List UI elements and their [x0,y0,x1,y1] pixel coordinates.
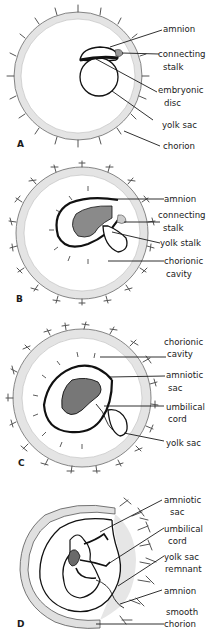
label-c-cavity: cavity [167,349,193,359]
label-a-chorion: chorion [163,141,195,151]
svg-text:stalk: stalk [163,62,184,72]
label-a-yolk-sac: yolk sac [162,120,197,130]
svg-text:smooth: smooth [166,607,198,617]
label-d-remnant: remnant [165,564,202,574]
label-a-disc: disc [164,98,181,108]
label-d-amniotic: amniotic [164,495,201,505]
svg-text:sac: sac [168,383,183,393]
label-c-yolk-sac: yolk sac [166,438,201,448]
label-a-stalk: stalk [163,62,184,72]
svg-text:cavity: cavity [166,269,192,279]
label-b-amnion: amnion [164,194,196,204]
label-b-cavity: cavity [166,269,192,279]
panel-c-letter: C [18,458,25,468]
svg-text:connecting: connecting [158,210,206,220]
svg-text:cord: cord [168,536,187,546]
label-c-umbilical: umbilical [166,402,205,412]
svg-text:amnion: amnion [164,194,196,204]
svg-text:amnion: amnion [164,586,196,596]
svg-text:yolk sac: yolk sac [166,438,201,448]
svg-text:chorion: chorion [163,141,195,151]
label-d-umbilical: umbilical [164,524,203,534]
svg-text:yolk sac: yolk sac [164,552,199,562]
svg-text:embryonic: embryonic [158,85,204,95]
embryo-development-diagram: amnion connecting stalk embryonic disc y… [0,0,215,632]
svg-text:cord: cord [168,414,187,424]
label-c-amniotic: amniotic [166,370,203,380]
label-d-amnion: amnion [164,586,196,596]
label-d-smooth: smooth [166,607,198,617]
label-d-cord: cord [168,536,187,546]
label-b-stalk: stalk [163,223,184,233]
svg-text:sac: sac [170,507,185,517]
label-a-connecting: connecting [158,49,206,59]
svg-text:chorionic: chorionic [164,256,203,266]
svg-text:disc: disc [164,98,181,108]
label-d-chorion: chorion [164,619,196,629]
label-b-chorionic: chorionic [164,256,203,266]
svg-text:yolk stalk: yolk stalk [160,238,201,248]
svg-text:remnant: remnant [165,564,202,574]
panel-a-yolk-sac [80,58,118,96]
svg-text:connecting: connecting [158,49,206,59]
label-d-yolk-sac: yolk sac [164,552,199,562]
label-a-embryonic: embryonic [158,85,204,95]
svg-text:amnion: amnion [163,24,195,34]
panel-c: chorionic cavity amniotic sac umbilical … [6,322,205,473]
label-c-cord: cord [168,414,187,424]
svg-text:chorion: chorion [164,619,196,629]
label-a-amnion: amnion [163,24,195,34]
label-b-yolk-stalk: yolk stalk [160,238,201,248]
panel-d-letter: D [17,619,24,629]
svg-text:amniotic: amniotic [164,495,201,505]
panel-d: amniotic sac umbilical cord yolk sac rem… [17,495,203,629]
panel-b-letter: B [16,294,23,304]
svg-text:umbilical: umbilical [166,402,205,412]
panel-a: amnion connecting stalk embryonic disc y… [7,5,206,151]
panel-a-letter: A [17,139,24,149]
panel-b: amnion connecting stalk yolk stalk chori… [9,161,206,305]
svg-text:umbilical: umbilical [164,524,203,534]
svg-text:chorionic: chorionic [164,337,203,347]
label-c-chorionic: chorionic [164,337,203,347]
label-b-connecting: connecting [158,210,206,220]
label-c-sac: sac [168,383,183,393]
svg-text:stalk: stalk [163,223,184,233]
svg-text:amniotic: amniotic [166,370,203,380]
svg-text:yolk sac: yolk sac [162,120,197,130]
svg-text:cavity: cavity [167,349,193,359]
label-d-sac: sac [170,507,185,517]
